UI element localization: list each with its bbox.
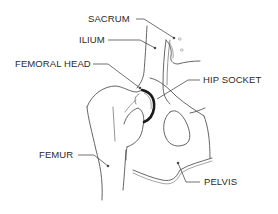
ilium-leader [108,40,155,48]
label-sacrum: SACRUM [88,14,130,24]
femur-leader [78,155,108,166]
label-femur: FEMUR [39,150,73,160]
pelvis-right-outline [204,116,210,158]
pelvis-lower-outline [133,158,212,181]
obturator-foramen [164,111,190,146]
femoral-head-leader [93,64,140,88]
ilium-outline-left [137,26,147,88]
label-ilium: ILIUM [79,35,105,45]
pelvis-upper-outline [150,78,204,116]
femur-shaft-left [87,107,102,200]
femoral-neck [124,108,144,147]
sacrum-leader [136,19,174,38]
label-pelvis: PELVIS [204,177,237,187]
sacrum-outline [166,40,200,64]
femur-shaft-right [123,150,126,190]
femur-top-outline [87,86,143,107]
label-femoral-head: FEMORAL HEAD [15,59,91,69]
label-hip-socket: HIP SOCKET [203,75,261,85]
hip-joint-diagram: SACRUM ILIUM FEMORAL HEAD HIP SOCKET FEM… [0,0,278,214]
